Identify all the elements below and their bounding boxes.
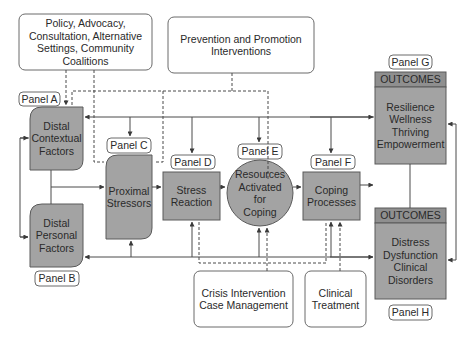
stress-coping-diagram: Policy, Advocacy, Consultation, Alternat… — [0, 0, 473, 343]
outcomes-negative-text: Distress Dysfunction Clinical Disorders — [375, 223, 446, 299]
panel-c-label: Panel C — [107, 138, 151, 153]
policy-box-text: Policy, Advocacy, Consultation, Alternat… — [19, 14, 152, 70]
crisis-box-text: Crisis Intervention Case Management — [194, 271, 293, 327]
proximal-stressors-text: Proximal Stressors — [106, 155, 152, 239]
outcomes-positive-text: Resilience Wellness Thriving Empowerment — [375, 87, 446, 164]
panel-e-label: Panel E — [238, 144, 282, 159]
prevention-box-text: Prevention and Promotion Interventions — [168, 17, 314, 73]
stress-reaction-text: Stress Reaction — [163, 172, 220, 220]
panel-f-label: Panel F — [311, 155, 355, 169]
outcomes-positive-header-text: OUTCOMES — [375, 72, 446, 87]
distal-personal-text: Distal Personal Factors — [30, 204, 83, 267]
resources-text: Resources Activated for Coping — [227, 160, 293, 226]
panel-g-label: Panel G — [389, 55, 432, 69]
clinical-box-text: Clinical Treatment — [305, 271, 366, 327]
panel-d-label: Panel D — [171, 155, 215, 169]
panel-b-label: Panel B — [35, 271, 79, 286]
panel-h-label: Panel H — [389, 305, 432, 320]
outcomes-negative-header-text: OUTCOMES — [375, 208, 446, 223]
panel-a-label: Panel A — [19, 92, 60, 106]
coping-processes-text: Coping Processes — [303, 172, 360, 220]
distal-contextual-text: Distal Contextual Factors — [30, 107, 83, 170]
